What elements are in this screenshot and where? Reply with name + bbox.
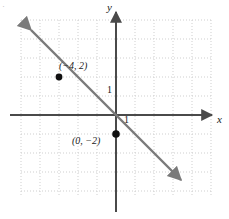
y-axis-tick-label-1: 1 (107, 84, 112, 95)
point-label-0-minus2: (0, −2) (72, 135, 100, 146)
coordinate-plane-figure: · (0, 0, 229, 219)
point-label-minus4-2: (−4, 2) (59, 60, 87, 71)
data-point-minus4-2 (56, 74, 63, 81)
coordinate-plane-svg (0, 0, 229, 219)
x-axis-label: x (217, 113, 222, 125)
y-axis-label: y (107, 1, 112, 13)
x-axis-tick-label-1: 1 (124, 114, 129, 125)
plotted-line (31, 30, 181, 180)
data-point-0-minus2 (112, 130, 120, 138)
